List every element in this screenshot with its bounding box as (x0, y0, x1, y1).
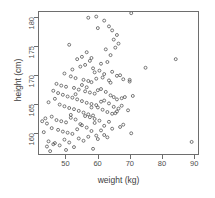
x-tick-label: 60 (88, 160, 108, 168)
plot-frame (38, 11, 199, 155)
y-tick-label: 180 (28, 17, 36, 37)
x-tick-label: 80 (152, 160, 172, 168)
x-tick-label: 90 (184, 160, 204, 168)
scatter-plot-figure: 5060708090 160165170175180 weight (kg) h… (0, 0, 215, 198)
y-tick-label: 160 (28, 133, 36, 153)
y-tick-label: 165 (28, 104, 36, 124)
scatter-points (39, 12, 198, 154)
y-tick-label: 175 (28, 46, 36, 66)
y-tick-label: 170 (28, 75, 36, 95)
x-tick-label: 70 (120, 160, 140, 168)
data-points-layer (39, 12, 198, 154)
y-axis-label: height (cm) (13, 30, 23, 130)
x-axis-label: weight (kg) (38, 175, 199, 185)
x-tick-label: 50 (55, 160, 75, 168)
